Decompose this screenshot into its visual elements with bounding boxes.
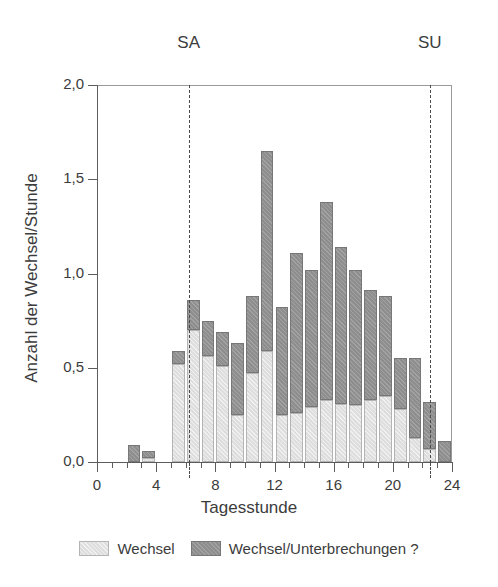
x-tick-minor [141,463,142,468]
x-tick-minor [186,463,187,468]
bar-segment-unterbrechungen [409,358,422,437]
x-tick-label: 24 [444,476,461,493]
bar [261,151,274,462]
x-tick-minor [363,463,364,468]
x-tick-minor [378,463,379,468]
event-label-sa: SA [177,33,200,53]
bar-segment-unterbrechungen [305,270,318,408]
x-tick-minor [437,463,438,468]
legend-swatch-unterbrechungen [191,541,221,556]
bar [128,445,141,462]
x-tick-minor [304,463,305,468]
bar-segment-wechsel [202,356,215,462]
bar [364,290,377,462]
y-tick-label: 0,0 [0,452,84,469]
bar-segment-unterbrechungen [202,321,215,357]
bar-segment-wechsel [409,438,422,463]
bar [202,321,215,462]
bar-segment-unterbrechungen [364,290,377,399]
bar-segment-unterbrechungen [261,151,274,351]
bar-segment-unterbrechungen [290,253,303,413]
bar-segment-wechsel [364,400,377,462]
x-tick-minor [201,463,202,468]
x-tick-label: 4 [152,476,160,493]
bar-segment-wechsel [305,407,318,462]
bar-segment-wechsel [172,364,185,462]
bar [349,270,362,462]
bar-segment-unterbrechungen [231,343,244,415]
bar [438,441,451,462]
bar-segment-wechsel [261,351,274,462]
event-label-su: SU [418,33,442,53]
event-line-sa [189,85,190,463]
event-tick-sa [189,463,190,478]
x-tick-major [97,463,98,472]
x-tick-minor [260,463,261,468]
x-tick-major [393,463,394,472]
x-tick-major [156,463,157,472]
bar-segment-unterbrechungen [128,445,141,462]
x-tick-major [452,463,453,472]
x-tick-label: 16 [325,476,342,493]
bar [142,451,155,462]
y-tick [88,368,97,369]
y-tick-label: 1,5 [0,169,84,186]
legend-label-wechsel: Wechsel [117,540,174,557]
bar-segment-wechsel [231,415,244,462]
bar-segment-unterbrechungen [438,441,451,462]
bar-segment-wechsel [276,415,289,462]
legend-item-unterbrechungen: Wechsel/Unterbrechungen ? [191,540,419,557]
y-axis-title: Anzahl der Wechsel/Stunde [22,128,42,428]
bar [216,332,229,462]
event-line-su [430,85,431,463]
bar [290,253,303,462]
x-tick-minor [408,463,409,468]
bar-segment-wechsel [320,400,333,462]
bar [305,270,318,462]
plot-frame-top [97,85,452,86]
x-tick-minor [127,463,128,468]
x-tick-minor [289,463,290,468]
y-tick [88,274,97,275]
y-tick-label: 2,0 [0,75,84,92]
x-tick-major [334,463,335,472]
chart-legend: Wechsel Wechsel/Unterbrechungen ? [0,540,498,557]
y-tick [88,462,97,463]
bar-segment-unterbrechungen [142,451,155,459]
x-tick-minor [348,463,349,468]
x-tick-minor [171,463,172,468]
x-tick-minor [230,463,231,468]
bar [246,296,259,462]
bar-segment-unterbrechungen [320,202,333,400]
bar [335,247,348,462]
bar-segment-wechsel [216,366,229,462]
bar-segment-wechsel [335,404,348,462]
y-tick [88,85,97,86]
plot-frame-right [451,85,452,462]
legend-swatch-wechsel [79,541,109,556]
bar-segment-unterbrechungen [349,270,362,406]
bar-segment-unterbrechungen [276,307,289,414]
bar-segment-unterbrechungen [246,296,259,373]
y-axis-line [97,85,98,463]
x-tick-label: 20 [384,476,401,493]
bar-chart: 0,00,51,01,52,0 04812162024 SASU Tagesst… [0,0,498,587]
event-tick-su [430,463,431,478]
bar-segment-wechsel [394,409,407,462]
x-tick-major [275,463,276,472]
bar-segment-unterbrechungen [379,296,392,396]
x-tick-label: 12 [266,476,283,493]
bar-segment-unterbrechungen [172,351,185,364]
x-tick-label: 8 [211,476,219,493]
y-tick-label: 0,5 [0,358,84,375]
x-tick-minor [422,463,423,468]
x-tick-minor [245,463,246,468]
bar-segment-wechsel [290,413,303,462]
bar [379,296,392,462]
x-tick-minor [319,463,320,468]
x-tick-minor [112,463,113,468]
x-axis-title: Tagesstunde [0,498,498,518]
plot-area [97,85,452,462]
bar-segment-wechsel [379,396,392,462]
bar [394,358,407,462]
